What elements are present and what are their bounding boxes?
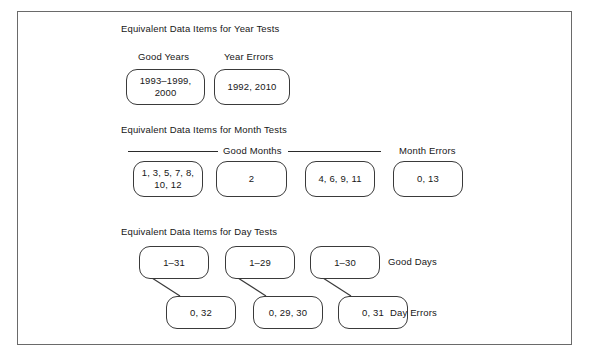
node-good-years[interactable]: 1993–1999, 2000 <box>126 69 205 105</box>
label-good-days: Good Days <box>388 256 437 268</box>
section-heading-day: Equivalent Data Items for Day Tests <box>121 226 277 238</box>
node-good-days-1[interactable]: 1–31 <box>139 246 209 279</box>
node-year-errors[interactable]: 1992, 2010 <box>214 69 290 105</box>
node-good-days-3[interactable]: 1–30 <box>310 246 380 279</box>
rule-good-months-left <box>128 151 218 152</box>
label-day-errors: Day Errors <box>390 307 437 319</box>
section-heading-year: Equivalent Data Items for Year Tests <box>121 23 279 35</box>
diagram-frame <box>17 11 572 345</box>
rule-good-months-right <box>288 151 381 152</box>
node-good-months-2[interactable]: 2 <box>216 161 287 197</box>
label-year-errors: Year Errors <box>224 51 273 63</box>
section-heading-month: Equivalent Data Items for Month Tests <box>121 124 287 136</box>
label-month-errors: Month Errors <box>399 145 456 157</box>
node-good-days-2[interactable]: 1–29 <box>225 246 295 279</box>
node-day-errors-2[interactable]: 0, 29, 30 <box>253 296 323 329</box>
diagram-canvas: Equivalent Data Items for Year Tests Goo… <box>0 0 590 359</box>
label-good-months: Good Months <box>223 145 282 157</box>
node-day-errors-1[interactable]: 0, 32 <box>166 296 236 329</box>
node-month-errors[interactable]: 0, 13 <box>393 161 463 197</box>
node-good-months-3[interactable]: 4, 6, 9, 11 <box>305 161 375 197</box>
node-good-months-1[interactable]: 1, 3, 5, 7, 8, 10, 12 <box>133 161 203 197</box>
label-good-years: Good Years <box>138 51 189 63</box>
